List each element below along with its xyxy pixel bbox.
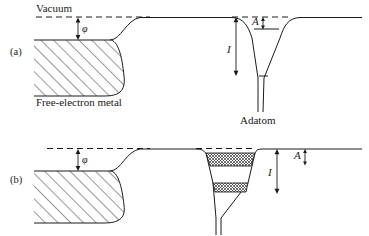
affinity-arrow-a <box>261 17 265 30</box>
adatom-label-a: Adatom <box>240 114 276 126</box>
ionization-label-b: I <box>267 166 273 178</box>
panel-a: Vacuum φ I A Free-electron metal Adatom … <box>10 2 362 126</box>
ionization-arrow-b <box>275 149 280 194</box>
panel-label-b: (b) <box>10 174 23 186</box>
panel-b: φ I A (b) <box>10 149 362 236</box>
figure-container: Vacuum φ I A Free-electron metal Adatom … <box>0 0 369 235</box>
adatom-lower-band-b <box>208 180 254 196</box>
vacuum-label-a: Vacuum <box>36 2 72 14</box>
work-function-arrow-b <box>76 149 81 171</box>
affinity-label-a: A <box>251 15 259 27</box>
surface-barrier-b <box>110 149 196 171</box>
ionization-arrow-a <box>234 17 239 76</box>
surface-barrier-a <box>110 18 232 41</box>
work-function-arrow-a <box>76 18 81 41</box>
diagram-canvas: Vacuum φ I A Free-electron metal Adatom … <box>0 0 369 235</box>
affinity-label-b: A <box>293 149 301 161</box>
affinity-arrow-b <box>303 149 307 166</box>
panel-label-a: (a) <box>10 46 22 58</box>
metal-label-a: Free-electron metal <box>36 96 122 108</box>
phi-label-a: φ <box>82 23 88 34</box>
ionization-label-a: I <box>226 43 232 55</box>
adatom-well-right-a <box>263 18 300 113</box>
phi-label-b: φ <box>82 154 88 165</box>
